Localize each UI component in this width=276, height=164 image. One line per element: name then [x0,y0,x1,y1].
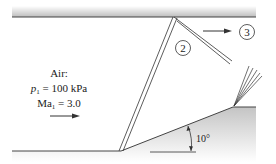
region-3-marker: 3 [240,25,255,40]
angle-label: 10° [196,133,210,144]
svg-text:3: 3 [244,26,250,38]
bottom-wall-ramp [12,107,256,162]
region-2-marker: 2 [176,41,191,56]
expansion-fan [234,66,262,106]
region-3-flow-arrow [203,29,232,34]
inlet-conditions: Air: p1 = 100 kPa Ma1 = 3.0 [30,67,88,111]
inlet-flow-arrow [50,114,80,119]
incident-shock [119,17,177,151]
mach-label: Ma1 = 3.0 [37,97,81,111]
top-wall [12,6,256,17]
shock-reflection-diagram: 2 3 Air: p1 = 100 kPa Ma1 = 3.0 10° [0,0,276,164]
pressure-label: p1 = 100 kPa [30,82,88,96]
fluid-label: Air: [50,67,68,79]
svg-text:2: 2 [180,42,186,54]
